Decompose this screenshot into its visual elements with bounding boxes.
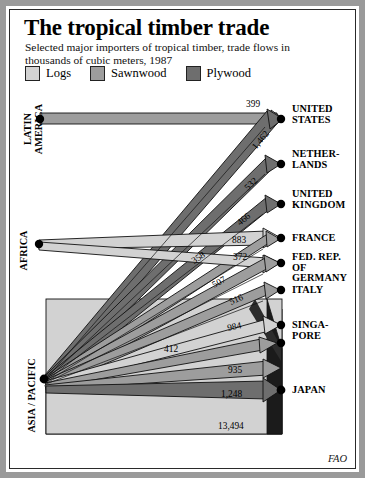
value-label-412: 412 — [164, 344, 178, 354]
dest-node-singapore-a — [277, 321, 285, 329]
source-label-africa: AFRICA — [18, 221, 29, 281]
value-label-883: 883 — [232, 235, 246, 245]
dest-node-singapore-b — [277, 339, 285, 347]
source-attribution: FAO — [328, 453, 347, 464]
dest-node-france — [277, 234, 285, 242]
source-label-asia-pacific: ASIA / PACIFIC — [26, 346, 37, 446]
origin-node-asia-pacific — [40, 375, 49, 384]
dest-label-germany: FED. REP. OF GERMANY — [292, 252, 347, 284]
dest-label-netherlands: NETHER- LANDS — [292, 149, 340, 170]
dest-label-singapore: SINGA- PORE — [292, 320, 329, 341]
dest-node-italy — [277, 286, 285, 294]
origin-node-africa — [35, 240, 43, 248]
dest-node-united-states — [277, 115, 285, 123]
dest-node-germany — [277, 259, 285, 267]
infographic-tropical-timber-trade: The tropical timber trade Selected major… — [0, 0, 365, 478]
dest-label-italy: ITALY — [292, 285, 323, 296]
dest-label-united-kingdom: UNITED KINGDOM — [292, 189, 345, 210]
value-label-935: 935 — [228, 365, 242, 375]
value-label-372: 372 — [233, 252, 247, 262]
dest-label-united-states: UNITED STATES — [292, 104, 333, 125]
value-label-399: 399 — [246, 99, 260, 109]
value-label-13494: 13,494 — [218, 421, 244, 431]
source-label-latin-america: LATIN AMERICA — [22, 94, 44, 164]
dest-label-japan: JAPAN — [292, 385, 325, 396]
dest-node-japan — [277, 386, 286, 395]
flow-latinamerica-us-sawnwood — [40, 110, 283, 127]
value-label-1248: 1,248 — [221, 389, 242, 399]
dest-node-netherlands — [277, 160, 285, 168]
dest-label-france: FRANCE — [292, 233, 336, 244]
dest-node-united-kingdom — [277, 200, 285, 208]
